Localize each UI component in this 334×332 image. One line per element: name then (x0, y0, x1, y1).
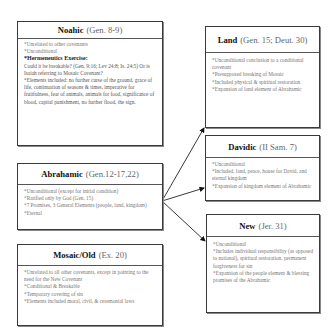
new-reference: (Jer. 31) (259, 221, 287, 231)
mosaic-item: *Conditional & Breakable (24, 283, 157, 290)
land-item: *Presupposed breaking of Mosaic (212, 71, 314, 78)
noahic-body: *Unrelated to other covenants *Unconditi… (18, 39, 162, 108)
davidic-title: Davidic (228, 142, 256, 152)
new-item: *Includes individual responsibility (as … (213, 248, 314, 270)
land-reference: (Gen. 15; Deut. 30) (240, 35, 307, 45)
land-item: *Included physical & spiritual restorati… (212, 79, 314, 86)
new-header: New (Jer. 31) (207, 215, 319, 237)
abrahamic-header: Abrahamic (Gen.12-17,22) (18, 164, 162, 185)
abrahamic-title: Abrahamic (41, 169, 83, 179)
new-item: *Unconditional (213, 241, 314, 248)
land-covenant-box: Land (Gen. 15; Deut. 30) *Unconditional … (205, 26, 320, 128)
hermeneutics-exercise-text: Could it be breakable? (Gen. 9:16; Lev 2… (24, 63, 157, 77)
mosaic-item: *Elements included moral, civil, & cerem… (24, 298, 157, 305)
mosaic-header: Mosaic/Old (Ex. 20) (18, 245, 162, 266)
abrahamic-item: *7 Promises, 3 General Elements (people,… (24, 202, 157, 209)
noahic-covenant-box: Noahic (Gen. 8-9) *Unrelated to other co… (17, 21, 163, 146)
abrahamic-item: *Eternal (24, 210, 157, 217)
noahic-header: Noahic (Gen. 8-9) (18, 22, 162, 39)
abrahamic-item: *Unconditional (except for initial condi… (24, 188, 157, 195)
land-title: Land (218, 35, 238, 45)
mosaic-item: *Temporary covering of sin (24, 291, 157, 298)
mosaic-reference: (Ex. 20) (99, 250, 127, 260)
new-covenant-box: New (Jer. 31) *Unconditional *Includes i… (206, 214, 320, 313)
land-body: *Unconditional conclusion to a condition… (206, 53, 319, 95)
davidic-covenant-box: Davidic (II Sam. 7) *Unconditional *Incl… (205, 135, 320, 201)
abrahamic-reference: (Gen.12-17,22) (86, 169, 139, 179)
noahic-elements: *Elements included: no further curse of … (24, 77, 157, 106)
mosaic-body: *Unrelated to all other covenants, excep… (18, 266, 162, 307)
noahic-item: *Unconditional (24, 48, 157, 55)
davidic-item: *Unconditional (212, 161, 314, 168)
arrow-abrahamic-to-new (162, 201, 205, 241)
noahic-item: *Unrelated to other covenants (24, 41, 157, 48)
noahic-reference: (Gen. 8-9) (86, 25, 122, 35)
new-item: *Expansion of the people element & bless… (213, 270, 314, 284)
noahic-title: Noahic (58, 25, 84, 35)
land-item: *Unconditional conclusion to a condition… (212, 57, 314, 71)
abrahamic-covenant-box: Abrahamic (Gen.12-17,22) *Unconditional … (17, 163, 163, 230)
davidic-reference: (II Sam. 7) (259, 142, 296, 152)
abrahamic-body: *Unconditional (except for initial condi… (18, 185, 162, 219)
new-title: New (239, 221, 255, 231)
mosaic-title: Mosaic/Old (53, 250, 96, 260)
davidic-item: *Included, land, peace, house for David,… (212, 168, 314, 182)
davidic-body: *Unconditional *Included, land, peace, h… (206, 158, 319, 192)
davidic-item: *Expansion of kingdom element of Abraham… (212, 183, 314, 190)
abrahamic-item: *Ratified only by God (Gen. 15) (24, 195, 157, 202)
mosaic-item: *Unrelated to all other covenants, excep… (24, 269, 157, 283)
hermeneutics-exercise-heading: *Hermeneutics Exercise: (24, 55, 157, 62)
davidic-header: Davidic (II Sam. 7) (206, 136, 319, 158)
mosaic-covenant-box: Mosaic/Old (Ex. 20) *Unrelated to all ot… (17, 244, 163, 326)
land-item: *Expansion of land element of Abrahamic (212, 86, 314, 93)
new-body: *Unconditional *Includes individual resp… (207, 237, 319, 286)
land-header: Land (Gen. 15; Deut. 30) (206, 27, 319, 53)
